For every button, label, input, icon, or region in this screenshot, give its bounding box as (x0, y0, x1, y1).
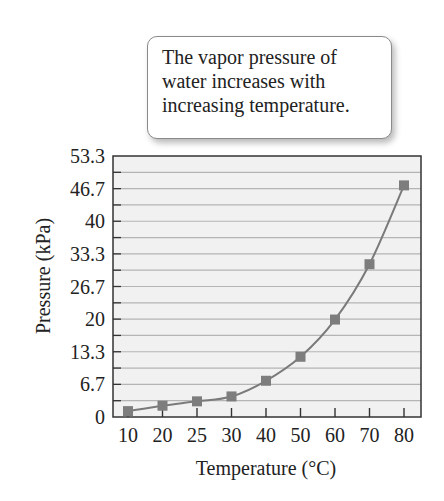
x-axis-ticks: 102025304050607080 (118, 408, 414, 446)
y-tick-label: 0 (95, 406, 105, 428)
x-tick-label: 80 (394, 424, 414, 446)
y-tick-label: 40 (85, 210, 105, 232)
x-axis-title: Temperature (°C) (196, 457, 336, 480)
x-tick-label: 70 (360, 424, 380, 446)
x-tick-label: 10 (118, 424, 138, 446)
data-point-marker (365, 259, 375, 269)
data-point-marker (261, 376, 271, 386)
data-point-marker (192, 396, 202, 406)
data-point-marker (330, 315, 340, 325)
data-point-marker (227, 391, 237, 401)
y-tick-label: 33.3 (70, 243, 105, 265)
data-point-marker (123, 406, 133, 416)
data-point-marker (399, 180, 409, 190)
x-tick-label: 50 (291, 424, 311, 446)
data-point-marker (296, 352, 306, 362)
y-axis-title: Pressure (kPa) (32, 218, 55, 334)
y-tick-label: 26.7 (70, 276, 105, 298)
y-tick-label: 6.7 (80, 373, 105, 395)
vapor-pressure-chart: 06.713.32026.733.34046.753.3 10202530405… (0, 0, 444, 501)
data-point-marker (158, 401, 168, 411)
y-tick-label: 13.3 (70, 341, 105, 363)
x-tick-label: 25 (187, 424, 207, 446)
x-tick-label: 60 (325, 424, 345, 446)
y-tick-label: 46.7 (70, 178, 105, 200)
x-tick-label: 40 (256, 424, 276, 446)
x-tick-label: 20 (153, 424, 173, 446)
y-tick-label: 53.3 (70, 145, 105, 167)
x-tick-label: 30 (222, 424, 242, 446)
y-tick-label: 20 (85, 308, 105, 330)
